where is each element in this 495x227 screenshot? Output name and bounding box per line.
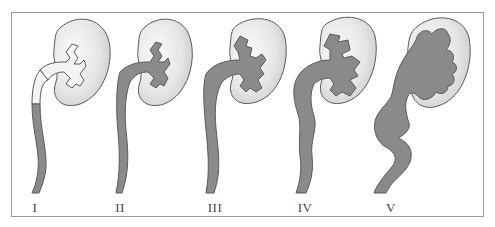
grade-label-1: I bbox=[33, 200, 38, 216]
grade-4-illustration bbox=[294, 17, 376, 193]
ureter-reflux-1 bbox=[32, 104, 46, 193]
grade-2-illustration bbox=[116, 19, 192, 193]
grade-label-5: V bbox=[386, 200, 396, 216]
grade-5-illustration bbox=[374, 18, 470, 193]
grade-label-2: II bbox=[115, 200, 125, 216]
grade-3-illustration bbox=[204, 19, 287, 193]
reflux-2 bbox=[116, 42, 170, 193]
grade-label-3: III bbox=[208, 200, 223, 216]
reflux-5 bbox=[374, 29, 457, 193]
reflux-grades-diagram bbox=[0, 0, 495, 227]
grade-label-4: IV bbox=[298, 200, 313, 216]
grade-1-illustration bbox=[32, 19, 110, 193]
